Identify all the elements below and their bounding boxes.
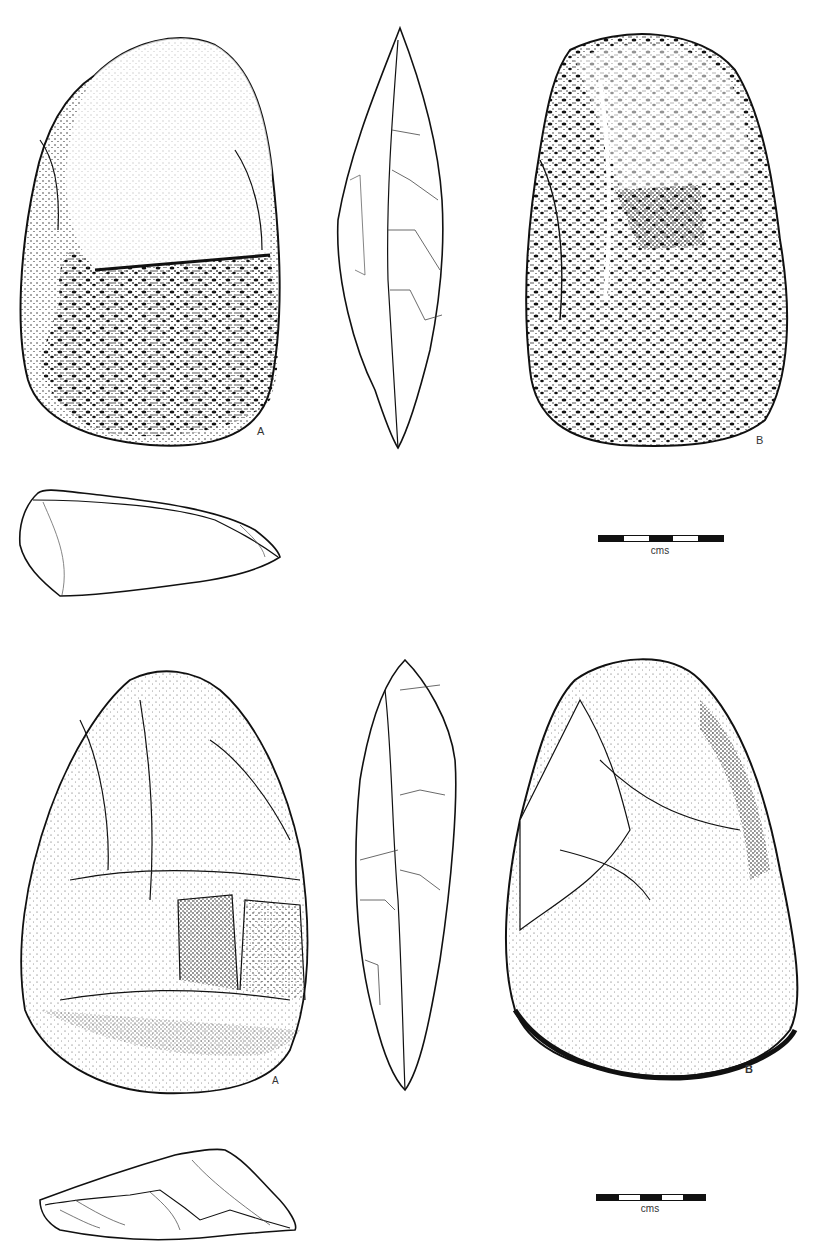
lower-view-b-label: B <box>745 1063 753 1075</box>
artifact-drawings <box>0 0 820 1257</box>
lower-scale-unit-label: cms <box>630 1203 670 1214</box>
lower-scale-bar <box>596 1194 706 1201</box>
lower-view-b-drawing <box>506 659 797 1078</box>
upper-side-profile-drawing <box>338 28 443 448</box>
upper-view-b-label: B <box>756 434 764 446</box>
illustration-plate: A B A B cms cms <box>0 0 820 1257</box>
lower-view-a-drawing <box>21 671 307 1093</box>
upper-view-a-label: A <box>257 425 265 437</box>
upper-cross-section-drawing <box>20 490 280 596</box>
lower-side-profile-drawing <box>356 660 456 1090</box>
upper-scale-unit-label: cms <box>640 545 680 556</box>
upper-view-a-drawing <box>21 38 280 446</box>
lower-view-a-label: A <box>272 1075 279 1086</box>
upper-scale-bar <box>598 535 724 542</box>
upper-view-b-drawing <box>526 34 787 446</box>
lower-cross-section-drawing <box>40 1149 296 1239</box>
